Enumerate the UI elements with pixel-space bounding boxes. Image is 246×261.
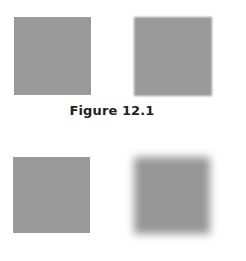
sharp-square-top-left (14, 17, 91, 95)
heavily-blurred-square-bottom-right (134, 157, 210, 234)
figure-caption: Figure 12.1 (0, 103, 224, 118)
sharp-square-bottom-left (13, 157, 90, 233)
slightly-blurred-square-top-right (134, 17, 212, 96)
